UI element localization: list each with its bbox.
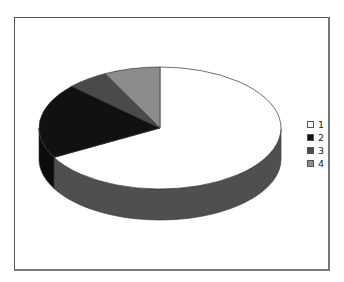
legend-item-3: 3 [307, 144, 324, 157]
legend-item-1: 1 [307, 118, 324, 131]
legend-swatch-4 [307, 160, 314, 167]
legend-swatch-3 [307, 147, 314, 154]
legend-swatch-2 [307, 134, 314, 141]
legend-label-3: 3 [318, 145, 324, 156]
legend-item-2: 2 [307, 131, 324, 144]
legend-swatch-1 [307, 121, 314, 128]
legend-item-4: 4 [307, 157, 324, 170]
pie-chart [0, 0, 344, 282]
legend-label-2: 2 [318, 132, 324, 143]
legend-label-4: 4 [318, 158, 324, 169]
legend-label-1: 1 [318, 119, 324, 130]
legend: 1 2 3 4 [307, 118, 324, 170]
